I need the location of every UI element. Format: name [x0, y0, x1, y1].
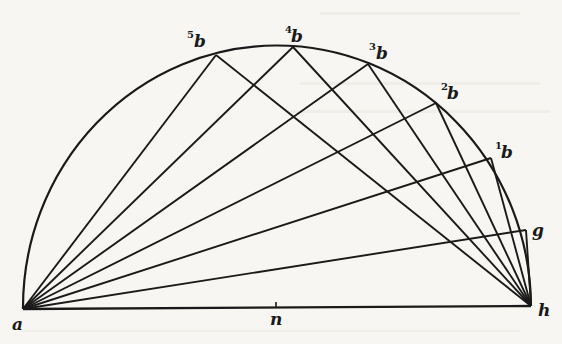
label-n: n — [270, 309, 282, 329]
label-3b-letter: b — [376, 43, 388, 63]
bleed-line — [20, 330, 520, 332]
chord-a-5b — [23, 55, 216, 309]
label-1b: 1 b — [495, 140, 513, 162]
label-5b: 5 b — [187, 29, 206, 51]
chord-h-5b — [216, 55, 531, 306]
label-3b-superscript: 3 — [369, 41, 376, 52]
label-5b-superscript: 5 — [187, 29, 194, 40]
label-4b-letter: b — [291, 26, 303, 46]
semicircle-diagram: a h n g 1 b 2 b 3 b 4 b 5 b — [0, 0, 562, 344]
bleed-line — [300, 82, 540, 85]
chord-a-4b — [23, 47, 293, 309]
label-2b-letter: b — [447, 83, 459, 103]
label-3b: 3 b — [369, 41, 388, 63]
label-a: a — [12, 314, 23, 334]
label-4b: 4 b — [285, 24, 303, 46]
label-2b: 2 b — [441, 81, 459, 103]
label-g: g — [532, 220, 544, 240]
label-1b-letter: b — [501, 142, 513, 162]
chord-a-1b — [23, 158, 491, 309]
chord-a-3b — [23, 64, 368, 309]
label-h: h — [538, 300, 550, 320]
bleed-line — [320, 12, 520, 15]
label-5b-letter: b — [194, 31, 206, 51]
chord-h-2b — [436, 103, 531, 306]
